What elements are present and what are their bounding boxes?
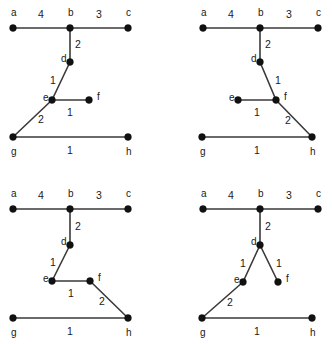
graph-node-a xyxy=(200,25,207,32)
edge-weight-d-f: 1 xyxy=(276,257,282,269)
edge-weight-a-b: 4 xyxy=(228,189,234,201)
graph-figure: 4321121abcdefgh4321121abcdefgh4321121abc… xyxy=(0,0,332,344)
graph-node-b xyxy=(67,25,74,32)
graph-node-a xyxy=(200,206,207,213)
edge-weight-b-d: 2 xyxy=(75,38,81,50)
node-label-c: c xyxy=(126,188,131,199)
edge-weight-b-c: 3 xyxy=(286,8,292,20)
edge-weight-b-d: 2 xyxy=(265,38,271,50)
node-label-f: f xyxy=(98,272,101,283)
node-label-d: d xyxy=(61,236,67,247)
node-label-a: a xyxy=(201,7,207,18)
node-label-d: d xyxy=(251,236,257,247)
node-label-c: c xyxy=(126,7,131,18)
graph-node-d xyxy=(67,59,74,66)
graph-node-e xyxy=(240,279,247,286)
node-label-g: g xyxy=(11,327,17,338)
edge-weight-g-h: 1 xyxy=(254,144,260,156)
graph-node-f xyxy=(87,278,94,285)
graph-node-c xyxy=(315,25,322,32)
edge-weight-b-c: 3 xyxy=(286,189,292,201)
node-label-b: b xyxy=(258,188,264,199)
edge-weight-g-h: 1 xyxy=(254,325,260,337)
edge-weight-f-h: 2 xyxy=(99,295,105,307)
node-label-a: a xyxy=(201,188,207,199)
node-label-h: h xyxy=(126,146,132,157)
graph-node-h xyxy=(309,315,316,322)
node-label-g: g xyxy=(200,146,206,157)
graph-node-a xyxy=(10,206,17,213)
graph-node-a xyxy=(10,25,17,32)
edge-weight-e-g: 2 xyxy=(38,113,44,125)
node-label-g: g xyxy=(11,146,17,157)
graph-node-f xyxy=(86,97,93,104)
node-label-b: b xyxy=(258,7,264,18)
graph-node-e xyxy=(235,97,242,104)
node-label-e: e xyxy=(234,274,240,285)
graph-node-g xyxy=(199,134,206,141)
edge-weight-b-c: 3 xyxy=(96,8,102,20)
graph-node-b xyxy=(257,25,264,32)
figure-background xyxy=(0,0,332,344)
edge-weight-e-f: 1 xyxy=(67,106,73,118)
graph-node-c xyxy=(125,25,132,32)
edge-weight-g-h: 1 xyxy=(67,325,73,337)
graph-node-b xyxy=(257,206,264,213)
node-label-g: g xyxy=(200,327,206,338)
edge-weight-a-b: 4 xyxy=(38,189,44,201)
graph-node-h xyxy=(125,315,132,322)
graph-node-f xyxy=(275,279,282,286)
edge-weight-d-e: 1 xyxy=(50,74,56,86)
edge-weight-b-c: 3 xyxy=(96,189,102,201)
edge-weight-b-d: 2 xyxy=(75,220,81,232)
node-label-f: f xyxy=(286,273,289,284)
edge-weight-e-f: 1 xyxy=(68,287,74,299)
edge-weight-f-h: 2 xyxy=(285,114,291,126)
edge-weight-b-d: 2 xyxy=(265,220,271,232)
node-label-d: d xyxy=(61,53,67,64)
graph-node-e xyxy=(49,278,56,285)
edge-weight-a-b: 4 xyxy=(38,8,44,20)
edge-weight-a-b: 4 xyxy=(228,8,234,20)
edge-weight-e-f: 1 xyxy=(254,106,260,118)
graph-node-b xyxy=(67,206,74,213)
node-label-e: e xyxy=(43,273,49,284)
edge-weight-d-e: 1 xyxy=(50,256,56,268)
node-label-f: f xyxy=(97,91,100,102)
graph-node-c xyxy=(125,206,132,213)
node-label-h: h xyxy=(310,146,316,157)
edge-weight-d-f: 1 xyxy=(275,74,281,86)
graph-figure-canvas: 4321121abcdefgh4321121abcdefgh4321121abc… xyxy=(0,0,332,344)
edge-weight-e-g: 2 xyxy=(227,296,233,308)
node-label-c: c xyxy=(316,7,321,18)
edge-weight-d-e: 1 xyxy=(240,257,246,269)
node-label-a: a xyxy=(11,188,17,199)
graph-node-e xyxy=(49,97,56,104)
graph-node-d xyxy=(257,242,264,249)
node-label-b: b xyxy=(68,188,74,199)
graph-node-d xyxy=(67,242,74,249)
graph-node-g xyxy=(199,315,206,322)
node-label-a: a xyxy=(11,7,17,18)
graph-node-g xyxy=(10,315,17,322)
node-label-d: d xyxy=(251,53,257,64)
graph-node-g xyxy=(10,134,17,141)
node-label-e: e xyxy=(43,92,49,103)
graph-node-c xyxy=(315,206,322,213)
node-label-c: c xyxy=(316,188,321,199)
graph-node-d xyxy=(257,59,264,66)
node-label-b: b xyxy=(68,7,74,18)
node-label-h: h xyxy=(310,327,316,338)
node-label-e: e xyxy=(229,92,235,103)
graph-node-h xyxy=(125,134,132,141)
node-label-h: h xyxy=(126,327,132,338)
graph-node-f xyxy=(273,97,280,104)
edge-weight-g-h: 1 xyxy=(67,144,73,156)
node-label-f: f xyxy=(284,91,287,102)
graph-node-h xyxy=(309,134,316,141)
